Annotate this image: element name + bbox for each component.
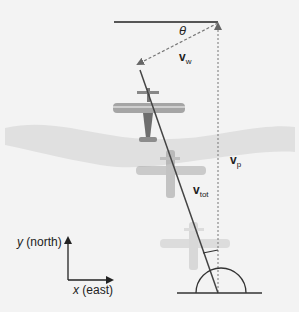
vw-label-sub: w (186, 57, 192, 66)
vtot-label-sub: tot (200, 190, 209, 199)
y-axis-text: (north) (23, 235, 62, 249)
theta-label: θ (179, 23, 186, 38)
vtot-label: vtot (193, 183, 209, 199)
vp-label-sub: p (237, 160, 241, 169)
vp-label-base: v (230, 153, 237, 167)
diagram-svg (0, 0, 299, 312)
x-axis-label: x (east) (73, 283, 113, 297)
vp-label: vp (230, 153, 241, 169)
vw-label: vw (179, 50, 191, 66)
vw-label-base: v (179, 50, 186, 64)
vtot-label-base: v (193, 183, 200, 197)
angle-marker (203, 250, 218, 253)
protractor-arc (196, 268, 246, 293)
y-axis-label: y (north) (17, 235, 62, 249)
diagram-canvas: θ vw vp vtot y (north) x (east) (0, 0, 299, 312)
x-axis-text: (east) (79, 283, 113, 297)
vw-vector (138, 23, 218, 64)
